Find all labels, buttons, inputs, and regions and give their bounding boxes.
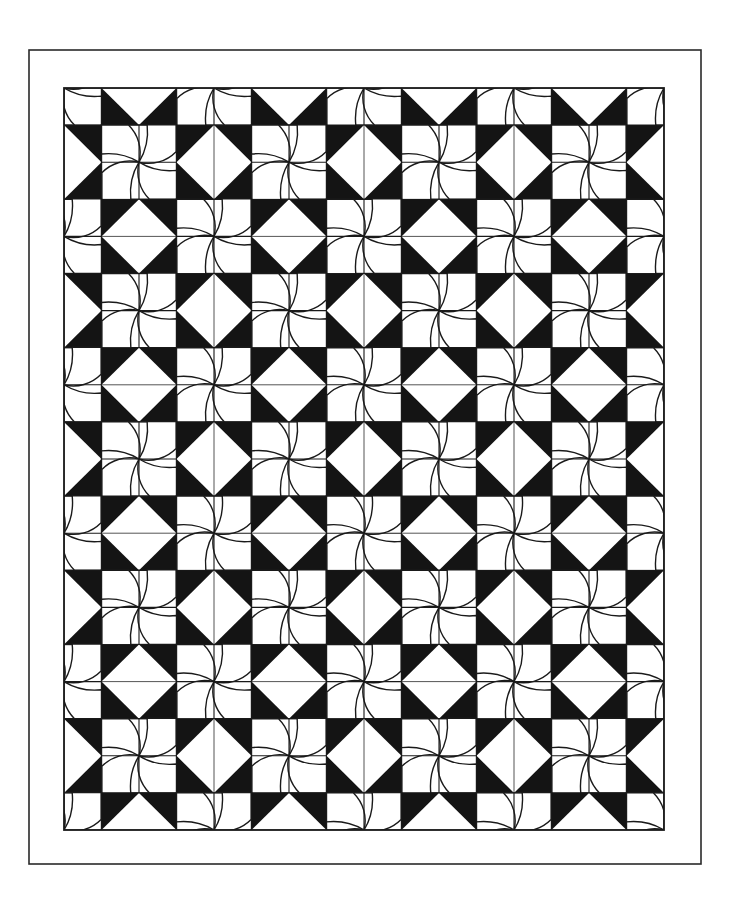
hourglass-block bbox=[102, 348, 177, 422]
pinwheel-block bbox=[177, 644, 252, 719]
pinwheel-blade bbox=[27, 829, 64, 868]
pinwheel-blade bbox=[663, 236, 702, 273]
pinwheel-block bbox=[552, 570, 627, 645]
pinwheel-block bbox=[102, 273, 177, 348]
hourglass-block bbox=[252, 348, 327, 422]
pinwheel-block bbox=[552, 273, 627, 348]
pinwheel-blade bbox=[214, 51, 251, 90]
pinwheel-block bbox=[327, 644, 402, 719]
pinwheel-block bbox=[327, 496, 402, 571]
pinwheel-blade bbox=[663, 88, 702, 125]
pinwheel-blade bbox=[63, 830, 102, 867]
pinwheel-block bbox=[402, 718, 477, 793]
pinwheel-block bbox=[402, 273, 477, 348]
hourglass-block bbox=[477, 274, 552, 348]
hourglass-block bbox=[327, 570, 402, 644]
hourglass-block bbox=[102, 496, 177, 570]
pinwheel-block bbox=[102, 125, 177, 200]
pinwheel-block bbox=[252, 422, 327, 497]
quilt-grid bbox=[27, 51, 702, 868]
pinwheel-blade bbox=[27, 348, 66, 385]
pinwheel-blade bbox=[364, 51, 401, 90]
pinwheel-blade bbox=[27, 793, 66, 830]
hourglass-block bbox=[177, 719, 252, 793]
hourglass-block bbox=[402, 348, 477, 422]
hourglass-block bbox=[252, 496, 327, 570]
pinwheel-blade bbox=[664, 199, 701, 238]
hourglass-block bbox=[177, 422, 252, 496]
hourglass-block bbox=[327, 719, 402, 793]
pinwheel-blade bbox=[663, 682, 702, 719]
pinwheel-blade bbox=[27, 235, 64, 274]
hourglass-block bbox=[327, 274, 402, 348]
pinwheel-blade bbox=[513, 830, 552, 867]
hourglass-block bbox=[402, 645, 477, 719]
hourglass-block bbox=[552, 496, 627, 570]
pinwheel-blade bbox=[663, 385, 702, 422]
pinwheel-blade bbox=[177, 829, 214, 868]
pinwheel-blade bbox=[64, 51, 101, 90]
pinwheel-block bbox=[477, 199, 552, 274]
pinwheel-block bbox=[552, 718, 627, 793]
pinwheel-block bbox=[402, 570, 477, 645]
pinwheel-block bbox=[102, 718, 177, 793]
pinwheel-block bbox=[102, 422, 177, 497]
hourglass-block bbox=[177, 274, 252, 348]
hourglass-block bbox=[477, 719, 552, 793]
pinwheel-blade bbox=[514, 51, 551, 90]
pinwheel-block bbox=[402, 125, 477, 200]
pinwheel-block bbox=[327, 347, 402, 422]
pinwheel-block bbox=[177, 347, 252, 422]
hourglass-block bbox=[177, 125, 252, 199]
pinwheel-blade bbox=[327, 829, 364, 868]
pinwheel-blade bbox=[327, 51, 366, 88]
hourglass-block bbox=[477, 422, 552, 496]
pinwheel-blade bbox=[27, 496, 66, 533]
pinwheel-blade bbox=[664, 51, 701, 90]
hourglass-block bbox=[102, 645, 177, 719]
pinwheel-blade bbox=[664, 496, 701, 535]
pinwheel-blade bbox=[27, 87, 64, 126]
hourglass-block bbox=[402, 496, 477, 570]
pinwheel-blade bbox=[663, 830, 702, 867]
pinwheel-blade bbox=[27, 384, 64, 423]
pinwheel-blade bbox=[664, 644, 701, 683]
pinwheel-blade bbox=[627, 829, 664, 868]
pinwheel-blade bbox=[664, 347, 701, 386]
pinwheel-block bbox=[252, 570, 327, 645]
hourglass-block bbox=[327, 422, 402, 496]
pinwheel-block bbox=[177, 199, 252, 274]
pinwheel-blade bbox=[27, 51, 66, 88]
pinwheel-blade bbox=[663, 533, 702, 570]
pinwheel-block bbox=[327, 199, 402, 274]
pinwheel-blade bbox=[27, 532, 64, 571]
pinwheel-blade bbox=[27, 645, 66, 682]
pinwheel-blade bbox=[177, 51, 216, 88]
hourglass-block bbox=[252, 199, 327, 273]
hourglass-block bbox=[102, 199, 177, 273]
hourglass-block bbox=[327, 125, 402, 199]
pinwheel-block bbox=[477, 644, 552, 719]
pinwheel-block bbox=[477, 496, 552, 571]
pinwheel-blade bbox=[477, 829, 514, 868]
pinwheel-block bbox=[252, 125, 327, 200]
pinwheel-block bbox=[402, 422, 477, 497]
pinwheel-block bbox=[252, 273, 327, 348]
pinwheel-block bbox=[552, 422, 627, 497]
hourglass-block bbox=[177, 570, 252, 644]
hourglass-block bbox=[402, 199, 477, 273]
pinwheel-block bbox=[252, 718, 327, 793]
quilt-illustration bbox=[0, 0, 729, 904]
pinwheel-blade bbox=[27, 199, 66, 236]
pinwheel-blade bbox=[477, 51, 516, 88]
pinwheel-block bbox=[477, 347, 552, 422]
pinwheel-block bbox=[552, 125, 627, 200]
hourglass-block bbox=[552, 199, 627, 273]
pinwheel-blade bbox=[213, 830, 252, 867]
pinwheel-blade bbox=[664, 793, 701, 832]
pinwheel-blade bbox=[27, 680, 64, 719]
hourglass-block bbox=[252, 645, 327, 719]
hourglass-block bbox=[477, 570, 552, 644]
pinwheel-block bbox=[177, 496, 252, 571]
hourglass-block bbox=[552, 645, 627, 719]
